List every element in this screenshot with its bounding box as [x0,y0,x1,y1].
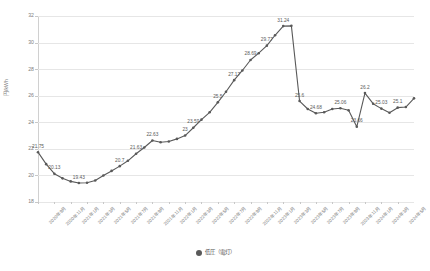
data-point-label: 20.7 [115,159,124,164]
data-point-marker [217,101,220,104]
x-tick-mark [38,202,39,204]
data-point-marker [355,126,358,129]
data-point-marker [110,170,113,173]
plot-area: 21.7520.1319.4320.721.6322.632323.5925.5… [38,16,414,202]
x-tick-mark [103,202,104,204]
data-point-marker [151,139,154,142]
x-tick-mark [398,202,399,204]
chart-legend: 低圧（電灯） [0,250,430,256]
data-point-marker [135,152,138,155]
x-tick-mark [201,202,202,204]
data-point-marker [396,106,399,109]
data-point-label: 20.13 [48,166,60,171]
x-tick-mark [251,202,252,204]
data-point-label: 25.06 [334,101,346,106]
data-point-marker [372,102,375,105]
y-tick-label: 26 [28,93,34,98]
data-point-label: 19.43 [73,176,85,181]
data-point-marker [37,151,40,154]
data-point-marker [118,165,121,168]
data-point-marker [127,160,130,163]
data-point-label: 25.03 [375,101,387,106]
data-point-marker [364,92,367,95]
data-point-marker [233,79,236,82]
data-point-marker [331,108,334,111]
data-point-marker [102,174,105,177]
data-point-marker [323,111,326,114]
x-tick-mark [185,202,186,204]
legend-marker-icon [196,250,202,256]
x-tick-mark [316,202,317,204]
x-tick-mark [218,202,219,204]
data-point-label: 25.5 [213,95,222,100]
data-point-marker [61,177,64,180]
x-axis-labels: 2020年9月2020年11月2021年1月2021年3月2021年5月2021… [38,204,414,250]
x-tick-mark [169,202,170,204]
y-tick-label: 30 [28,40,34,45]
data-point-marker [315,112,318,115]
y-tick-label: 24 [28,120,34,125]
grid-line [38,202,414,203]
x-tick-mark [136,202,137,204]
data-point-marker [388,111,391,114]
data-point-label: 31.24 [277,19,289,24]
y-tick-label: 20 [28,173,34,178]
series-line-低圧 [38,16,414,202]
data-point-marker [167,140,170,143]
data-point-label: 21.75 [32,145,44,150]
data-point-marker [274,34,277,37]
data-point-label: 21.63 [130,146,142,151]
data-point-marker [176,138,179,141]
data-point-label: 26.2 [360,86,369,91]
data-point-label: 24.68 [310,106,322,111]
data-point-marker [53,172,56,175]
y-tick-label: 18 [28,199,34,204]
data-point-marker [225,90,228,93]
data-point-label: 25.6 [295,94,304,99]
data-point-label: 29.77 [261,38,273,43]
y-tick-label: 32 [28,13,34,18]
data-point-marker [249,59,252,62]
x-tick-mark [349,202,350,204]
data-point-marker [86,181,89,184]
data-point-marker [306,108,309,111]
data-point-marker [405,106,408,109]
data-point-marker [200,118,203,121]
data-point-marker [208,111,211,114]
data-point-marker [143,146,146,149]
x-tick-mark [283,202,284,204]
data-point-label: 25.1 [393,100,402,105]
x-tick-mark [120,202,121,204]
x-tick-mark [152,202,153,204]
x-tick-mark [267,202,268,204]
data-point-marker [184,134,187,137]
x-tick-mark [332,202,333,204]
line-chart: 円/kWh 1820222426283032 21.7520.1319.4320… [0,0,430,271]
x-tick-mark [300,202,301,204]
data-point-marker [339,107,342,110]
x-tick-mark [87,202,88,204]
legend-item-label: 低圧（電灯） [205,250,235,255]
data-point-label: 27.17 [228,73,240,78]
data-point-marker [413,97,416,100]
data-point-label: 23.66 [351,120,363,125]
data-point-label: 22.63 [146,133,158,138]
data-point-marker [78,182,81,185]
data-point-marker [45,163,48,166]
series-polyline [38,26,414,183]
data-point-marker [290,25,293,28]
x-tick-mark [71,202,72,204]
data-point-marker [282,25,285,28]
data-point-marker [159,141,162,144]
x-tick-mark [381,202,382,204]
x-tick-mark [365,202,366,204]
data-point-marker [94,179,97,182]
data-point-marker [298,100,301,103]
y-axis-ticks: 1820222426283032 [0,0,34,271]
data-point-marker [266,44,269,47]
data-point-marker [69,180,72,183]
data-point-label: 23 [182,128,187,133]
data-point-label: 28.69 [245,53,257,58]
x-tick-mark [54,202,55,204]
data-point-marker [257,52,260,55]
